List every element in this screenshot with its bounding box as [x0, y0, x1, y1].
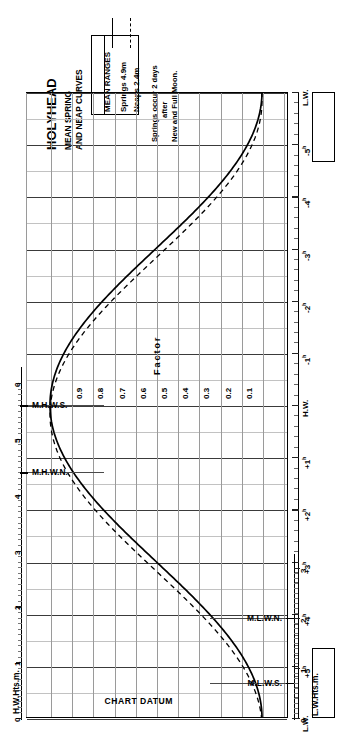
time-label-hour-v: -3h — [301, 250, 312, 261]
lw-axis-minor-tick-v — [294, 613, 298, 614]
hw-axis-tick-label-v: 5 — [13, 438, 22, 442]
hw-axis-minor-tick-v — [18, 562, 22, 563]
lw-axis-tick-label-v: 0 — [299, 719, 308, 723]
hw-axis-minor-tick-v — [18, 389, 22, 390]
reference-tick-mlws — [286, 683, 294, 684]
time-axis-minor-tick-v — [294, 259, 298, 260]
hw-axis-tick-label-v: 1 — [13, 662, 22, 666]
factor-tick-label-v: 0.9 — [75, 388, 84, 399]
hw-axis-minor-tick-v — [18, 657, 22, 658]
time-axis-minor-tick-v — [294, 165, 298, 166]
time-axis-minor-tick-v — [294, 113, 298, 114]
time-axis-minor-tick-v — [294, 447, 298, 448]
lw-axis-minor-tick-v — [294, 678, 298, 679]
hw-axis-minor-tick-v — [18, 456, 22, 457]
lw-axis-minor-tick-v — [294, 688, 298, 689]
factor-tick-label-v: 0.7 — [118, 388, 127, 399]
factor-axis-title-v: Factor — [152, 335, 162, 375]
time-axis-tick-v — [292, 144, 299, 145]
hw-axis-minor-tick-v — [18, 556, 22, 557]
hw-axis-minor-tick-v — [18, 578, 22, 579]
time-axis-tick-v — [292, 92, 299, 93]
hw-axis-minor-tick-v — [18, 612, 22, 613]
lw-axis-minor-tick-v — [294, 578, 298, 579]
hw-axis-tick-label-v: 2 — [13, 606, 22, 610]
lw-axis-minor-tick-v — [294, 623, 298, 624]
hw-axis-minor-tick-v — [18, 645, 22, 646]
hw-axis-minor-tick-v — [18, 634, 22, 635]
lw-axis-minor-tick-v — [294, 603, 298, 604]
lw-axis-tick-label-v: 2 — [299, 619, 308, 623]
hw-axis-minor-tick-v — [18, 433, 22, 434]
time-label-hour-v: -4h — [301, 198, 312, 209]
time-axis-minor-tick-v — [294, 342, 298, 343]
time-axis-tick-v — [292, 196, 299, 197]
hw-axis-minor-tick-v — [18, 506, 22, 507]
lw-axis-minor-tick-v — [294, 658, 298, 659]
factor-tick-label-v: 0.2 — [224, 388, 233, 399]
time-label-hour-v: -5h — [301, 146, 312, 157]
time-axis-minor-tick-v — [294, 269, 298, 270]
hw-axis-minor-tick-v — [18, 573, 22, 574]
time-label-lw-v: L.W. — [301, 90, 310, 106]
hw-axis-minor-tick-v — [18, 623, 22, 624]
lw-end-box-v — [312, 92, 335, 162]
time-axis-minor-tick-v — [294, 541, 298, 542]
hw-axis-minor-tick-v — [18, 500, 22, 501]
time-axis-minor-tick-v — [294, 238, 298, 239]
time-axis-minor-tick-v — [294, 217, 298, 218]
lw-axis-minor-tick-v — [294, 583, 298, 584]
reference-level-label-mlwn: M.L.W.N. — [247, 613, 282, 623]
hw-axis-minor-tick-v — [18, 489, 22, 490]
time-axis-minor-tick-v — [294, 290, 298, 291]
reference-level-label-mhwn: M.H.W.N. — [32, 467, 68, 477]
time-axis-tick-v — [292, 301, 299, 302]
lw-axis-minor-tick-v — [294, 628, 298, 629]
time-label-hour-v: +2h — [301, 509, 312, 522]
lw-axis-minor-tick-v — [294, 608, 298, 609]
lw-axis-minor-tick-v — [294, 598, 298, 599]
time-axis-minor-tick-v — [294, 478, 298, 479]
time-axis-minor-tick-v — [294, 415, 298, 416]
lw-axis-minor-tick-v — [294, 588, 298, 589]
time-label-hw-v: H.W. — [301, 400, 310, 417]
hw-axis-minor-tick-v — [18, 601, 22, 602]
time-axis-minor-tick-v — [294, 436, 298, 437]
time-axis-minor-tick-v — [294, 155, 298, 156]
hw-axis-minor-tick-v — [18, 417, 22, 418]
tide-curves-v — [0, 0, 343, 752]
hw-axis-minor-tick-v — [18, 528, 22, 529]
reference-tick-mlwn — [286, 618, 294, 619]
lw-axis-minor-tick-v — [294, 673, 298, 674]
hw-axis-minor-tick-v — [18, 539, 22, 540]
hw-axis-minor-tick-v — [18, 534, 22, 535]
hw-axis-minor-tick-v — [18, 400, 22, 401]
time-axis-tick-v — [292, 405, 299, 406]
factor-tick-label-v: 0.6 — [139, 388, 148, 399]
reference-tick-mhws — [20, 405, 28, 406]
time-axis-minor-tick-v — [294, 551, 298, 552]
hw-axis-minor-tick-v — [18, 517, 22, 518]
hw-axis-title-v: H.W.Hts.m. — [11, 670, 21, 714]
lw-axis-minor-tick-v — [294, 703, 298, 704]
time-axis-minor-tick-v — [294, 186, 298, 187]
reference-tick-mhwn — [20, 472, 28, 473]
time-label-hour-v: -1h — [301, 354, 312, 365]
tidal-curve-portrait: HOLYHEAD MEAN SPRING AND NEAP CURVES MEA… — [0, 0, 343, 752]
time-label-hour-v: +1h — [301, 457, 312, 470]
time-axis-minor-tick-v — [294, 322, 298, 323]
hw-axis-tick-label-v: 3 — [13, 550, 22, 554]
reference-level-label-mlws: M.L.W.S. — [248, 678, 282, 688]
time-axis-minor-tick-v — [294, 123, 298, 124]
chart-datum-label: CHART DATUM — [105, 696, 173, 706]
lw-axis-minor-tick-v — [294, 693, 298, 694]
hw-axis-minor-tick-v — [18, 450, 22, 451]
time-axis-minor-tick-v — [294, 488, 298, 489]
hw-axis-minor-tick-v — [18, 467, 22, 468]
time-axis-minor-tick-v — [294, 395, 298, 396]
hw-axis-minor-tick-v — [18, 478, 22, 479]
time-axis-tick-v — [292, 509, 299, 510]
hw-axis-minor-tick-v — [18, 595, 22, 596]
hw-axis-minor-tick-v — [18, 545, 22, 546]
time-axis-tick-v — [292, 353, 299, 354]
